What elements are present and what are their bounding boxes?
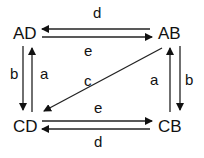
edge-cb-ab: a <box>150 48 170 112</box>
edge-label-e-top: e <box>84 42 92 59</box>
edge-label-b-right: b <box>185 71 193 88</box>
node-ab: AB <box>158 24 181 43</box>
edge-label-d-top: d <box>93 4 101 21</box>
state-diagram: AD AB CD CB d e b a c a b e <box>0 0 204 158</box>
node-cb: CB <box>158 117 182 136</box>
edge-label-a-left: a <box>40 65 49 82</box>
edge-ad-cd: b <box>10 46 23 110</box>
edge-label-b-left: b <box>10 65 18 82</box>
edge-label-d-bottom: d <box>94 133 102 150</box>
edge-cd-cb: e <box>42 99 152 121</box>
edge-label-c: c <box>84 72 92 89</box>
edge-cd-ad: a <box>32 48 49 112</box>
edge-ab-ad: d <box>42 4 150 29</box>
edge-cb-cd: d <box>42 129 150 150</box>
edge-ab-cb: b <box>180 46 193 110</box>
edge-label-e-bottom: e <box>94 99 102 116</box>
node-ad: AD <box>13 24 37 43</box>
edge-label-a-right: a <box>150 71 159 88</box>
edge-ab-cd: c <box>44 48 162 111</box>
edge-ad-ab: e <box>42 37 152 59</box>
node-cd: CD <box>13 117 38 136</box>
